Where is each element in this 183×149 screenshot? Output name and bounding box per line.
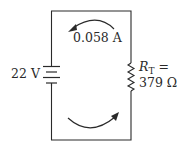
voltage-label: 22 V	[11, 68, 40, 81]
current-label: 0.058 A	[73, 32, 122, 45]
wire-bottom	[52, 86, 132, 140]
current-arrow-bottom-icon	[68, 112, 119, 128]
battery-icon	[43, 67, 60, 87]
equals-sign: =	[158, 59, 168, 74]
resistance-value-label: 379 Ω	[139, 77, 177, 90]
resistance-name-label: RT =	[139, 61, 169, 74]
resistor-symbol: R	[139, 59, 148, 74]
resistor-icon	[128, 63, 134, 91]
